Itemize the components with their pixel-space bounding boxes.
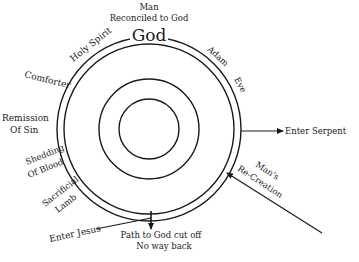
label-eve: Eve <box>232 75 248 94</box>
god-label: God <box>132 25 167 45</box>
label-no-way-back: No way back <box>136 241 192 251</box>
label-path-cut-off: Path to God cut off <box>121 230 203 240</box>
label-enter-jesus: Enter Jesus <box>48 223 102 244</box>
label-remission-1: Remission <box>2 113 49 123</box>
jesus-line <box>96 218 151 229</box>
outermost-ring <box>57 37 241 221</box>
outer-inner-ring <box>64 44 234 214</box>
title-reconciled: Reconciled to God <box>110 13 189 23</box>
title-man: Man <box>139 2 159 12</box>
label-remission-2: Of Sin <box>10 125 39 135</box>
rings <box>57 37 241 221</box>
label-adam: Adam <box>205 43 231 68</box>
label-comforter: Comforter <box>24 69 73 90</box>
inner-ring <box>119 99 179 159</box>
middle-ring <box>99 79 199 179</box>
label-enter-serpent: Enter Serpent <box>285 126 347 136</box>
spiritual-rings-diagram: Man Reconciled to God God Holy Spirit Co… <box>0 0 359 262</box>
recreation-arrow <box>227 173 322 233</box>
